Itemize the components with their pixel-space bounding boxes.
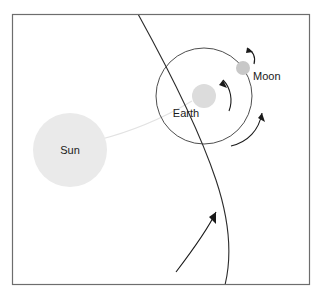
- moon-body: [236, 61, 250, 75]
- earth-label: Earth: [173, 107, 199, 119]
- earth-body: [192, 84, 216, 108]
- sun-label: Sun: [60, 144, 80, 156]
- orbital-diagram: Sun Earth Moon: [0, 0, 325, 295]
- moon-label: Moon: [253, 70, 281, 82]
- diagram-canvas: Sun Earth Moon: [0, 0, 325, 295]
